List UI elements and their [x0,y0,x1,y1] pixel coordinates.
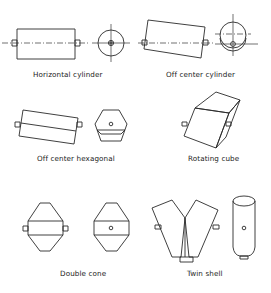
off-center-cylinder-end-view [215,14,258,56]
rotating-cube-figure [182,92,240,148]
label-horizontal-cylinder: Horizontal cylinder [33,70,103,79]
off-center-cylinder-figure [138,14,258,58]
horizontal-cylinder-side-view [2,29,90,59]
label-off-center-cylinder: Off center cylinder [166,70,235,79]
mixer-diagram: Horizontal cylinder Off center cylinder … [0,0,271,293]
double-cone-side-view [23,203,68,251]
double-cone-figure [23,203,129,251]
horizontal-cylinder-figure [2,24,130,62]
label-rotating-cube: Rotating cube [188,154,239,163]
twin-shell-end-view [233,196,255,259]
horizontal-cylinder-end-view [92,24,130,62]
off-center-hexagonal-end-view [95,110,127,141]
twin-shell-figure [152,196,255,262]
off-center-hexagonal-side-view [15,110,82,144]
twin-shell-v-blender [152,200,219,262]
off-center-cylinder-side-view [138,20,213,58]
label-twin-shell: Twin shell [187,269,223,278]
label-double-cone: Double cone [60,269,106,278]
label-off-center-hexagonal: Off center hexagonal [37,154,115,163]
off-center-hexagonal-figure [15,110,127,144]
double-cone-end-view [94,203,129,251]
